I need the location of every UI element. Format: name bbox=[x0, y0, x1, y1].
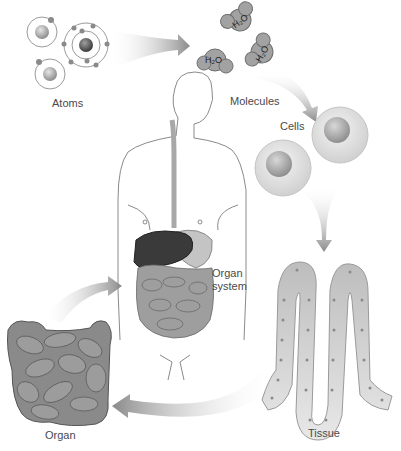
atoms-illustration bbox=[27, 17, 110, 89]
esophagus bbox=[172, 120, 174, 228]
tissue-illustration bbox=[262, 262, 392, 440]
arrow-tissue-to-organ bbox=[112, 370, 275, 418]
arrow-organ-to-organ-system bbox=[42, 276, 122, 322]
label-tissue: Tissue bbox=[308, 427, 340, 440]
organ-illustration bbox=[8, 321, 112, 426]
liver bbox=[134, 231, 193, 268]
label-atoms: Atoms bbox=[52, 97, 83, 110]
label-organ-system: Organ system bbox=[212, 267, 247, 293]
cells-illustration bbox=[255, 107, 368, 196]
arrow-atoms-to-molecules bbox=[110, 30, 190, 70]
arrow-cells-to-tissue bbox=[300, 185, 342, 252]
svg-text:H₂O: H₂O bbox=[205, 55, 222, 65]
label-cells: Cells bbox=[280, 120, 304, 133]
diagram-svg: H₂O H₂O H₂O bbox=[0, 0, 401, 451]
intestines-in-body bbox=[136, 265, 213, 338]
label-organ: Organ bbox=[45, 429, 76, 442]
label-molecules: Molecules bbox=[230, 95, 280, 108]
diagram-canvas: H₂O H₂O H₂O bbox=[0, 0, 401, 451]
